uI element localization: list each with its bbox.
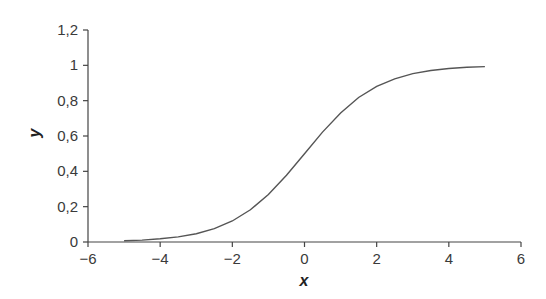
x-tick-label: 4 — [445, 250, 453, 267]
x-tick-label: 6 — [517, 250, 525, 267]
y-axis-label: y — [26, 127, 43, 138]
y-tick-label: 0 — [70, 233, 78, 250]
axes — [88, 30, 521, 242]
x-axis-ticks: −6−4−20246 — [79, 242, 525, 267]
x-axis-label: x — [299, 272, 310, 289]
y-tick-label: 1,2 — [57, 21, 78, 38]
x-tick-label: 2 — [372, 250, 380, 267]
y-tick-label: 0,2 — [57, 198, 78, 215]
y-axis-ticks: 00,20,40,60,811,2 — [57, 21, 88, 250]
y-tick-label: 0,4 — [57, 162, 78, 179]
y-tick-label: 1 — [70, 56, 78, 73]
x-tick-label: −4 — [152, 250, 169, 267]
sigmoid-curve — [124, 67, 485, 241]
x-tick-label: 0 — [300, 250, 308, 267]
x-tick-label: −6 — [79, 250, 96, 267]
sigmoid-chart: 00,20,40,60,811,2 −6−4−20246 x y — [0, 0, 546, 299]
x-tick-label: −2 — [224, 250, 241, 267]
y-tick-label: 0,6 — [57, 127, 78, 144]
y-tick-label: 0,8 — [57, 92, 78, 109]
